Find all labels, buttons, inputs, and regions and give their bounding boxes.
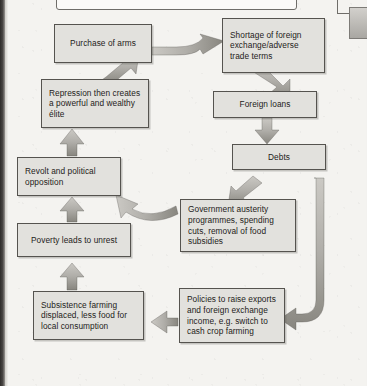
node-debts-label: Debts	[268, 152, 290, 163]
node-purchase-of-arms-label: Purchase of arms	[70, 38, 136, 49]
node-shortage-of-foreign-exchange[interactable]: Shortage of foreign exchange/adverse tra…	[222, 18, 325, 73]
node-subsistence-farming-displaced[interactable]: Subsistence farming displaced, less food…	[33, 291, 144, 340]
arrow-austerity-to-revolt	[116, 195, 178, 221]
node-foreign-loans-label: Foreign loans	[240, 99, 291, 110]
arrow-poverty-to-revolt	[60, 197, 84, 222]
node-subsistence-farming-displaced-label: Subsistence farming displaced, less food…	[41, 300, 136, 332]
node-poverty-leads-to-unrest-label: Poverty leads to unrest	[31, 235, 117, 246]
node-repression-creates-elite[interactable]: Repression then creates a powerful and w…	[41, 79, 149, 128]
node-policies-to-raise-exports[interactable]: Policies to raise exports and foreign ex…	[179, 288, 285, 343]
node-government-austerity[interactable]: Government austerity programmes, spendin…	[180, 199, 296, 252]
arrow-loans-to-debts	[255, 118, 279, 144]
node-repression-creates-elite-label: Repression then creates a powerful and w…	[49, 88, 141, 120]
node-debts[interactable]: Debts	[232, 144, 326, 170]
arrow-policies-to-subsistence	[151, 311, 178, 333]
node-foreign-loans[interactable]: Foreign loans	[213, 91, 317, 118]
arrow-revolt-to-repression	[60, 129, 84, 156]
arrow-arms-to-shortage	[152, 34, 224, 55]
node-government-austerity-label: Government austerity programmes, spendin…	[188, 204, 288, 246]
arrow-subsistence-to-poverty	[60, 263, 84, 290]
node-purchase-of-arms[interactable]: Purchase of arms	[54, 24, 152, 63]
node-revolt-and-political-opposition-label: Revolt and political opposition	[25, 166, 113, 187]
node-revolt-and-political-opposition[interactable]: Revolt and political opposition	[17, 157, 121, 196]
node-policies-to-raise-exports-label: Policies to raise exports and foreign ex…	[187, 294, 277, 336]
node-poverty-leads-to-unrest[interactable]: Poverty leads to unrest	[17, 223, 131, 257]
node-shortage-of-foreign-exchange-label: Shortage of foreign exchange/adverse tra…	[230, 30, 317, 62]
